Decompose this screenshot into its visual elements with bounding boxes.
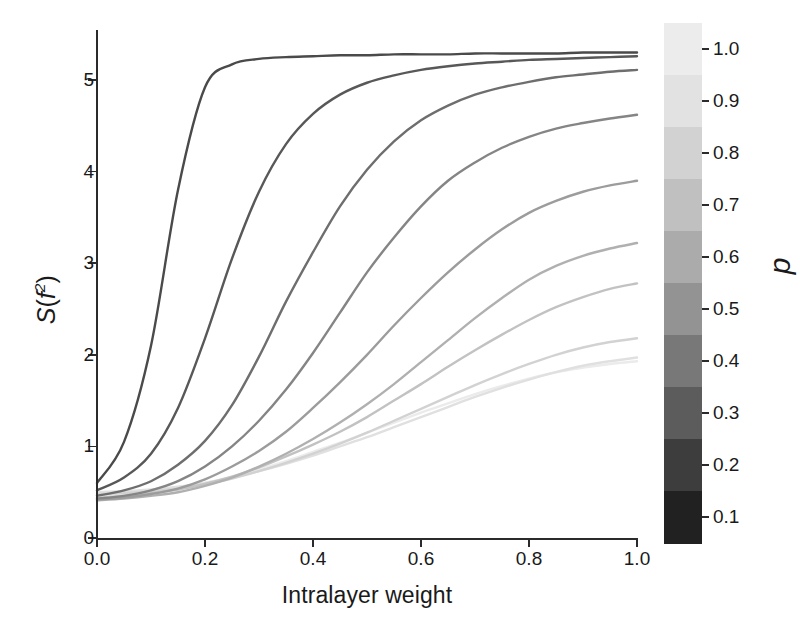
y-axis-title-fn: S bbox=[32, 307, 60, 324]
x-axis-tick bbox=[528, 539, 530, 547]
y-axis-title-close: ) bbox=[32, 275, 60, 283]
x-axis-tick bbox=[312, 539, 314, 547]
colorbar-tick bbox=[702, 516, 709, 518]
colorbar-band bbox=[664, 439, 702, 492]
colorbar-tick-label: 1.0 bbox=[713, 39, 761, 58]
colorbar-band bbox=[664, 491, 702, 544]
colorbar-tick bbox=[702, 204, 709, 206]
y-axis-line bbox=[96, 30, 98, 540]
colorbar-band bbox=[664, 387, 702, 440]
x-axis-line bbox=[96, 538, 638, 540]
x-axis-tick-label: 0.4 bbox=[283, 549, 343, 568]
x-axis-tick-label: 0.2 bbox=[175, 549, 235, 568]
y-axis-title-open: ( bbox=[32, 299, 60, 307]
y-axis-title-var: f bbox=[32, 292, 60, 299]
y-axis-title: S(f2) bbox=[31, 240, 60, 360]
curve-p-0.1 bbox=[97, 52, 637, 483]
curve-p-0.8 bbox=[97, 338, 637, 494]
x-axis-tick-label: 0.8 bbox=[499, 549, 559, 568]
colorbar-band bbox=[664, 283, 702, 336]
colorbar-band bbox=[664, 127, 702, 180]
curve-p-0.9 bbox=[97, 358, 637, 493]
colorbar-tick-label: 0.2 bbox=[713, 455, 761, 474]
colorbar-tick bbox=[702, 360, 709, 362]
curve-p-0.7 bbox=[97, 283, 637, 497]
curve-p-0.3 bbox=[97, 70, 637, 496]
x-axis-title: Intralayer weight bbox=[96, 582, 638, 609]
y-axis-tick-label: 1 bbox=[54, 436, 94, 455]
x-axis-tick-label: 0.6 bbox=[391, 549, 451, 568]
x-axis-tick bbox=[420, 539, 422, 547]
colorbar-gradient bbox=[664, 23, 702, 543]
y-axis-tick-label: 0 bbox=[54, 528, 94, 547]
curve-p-0.6 bbox=[97, 243, 637, 500]
colorbar-tick bbox=[702, 464, 709, 466]
colorbar-tick-label: 0.9 bbox=[713, 91, 761, 110]
colorbar-tick-label: 0.8 bbox=[713, 143, 761, 162]
colorbar-tick bbox=[702, 412, 709, 414]
colorbar-band bbox=[664, 231, 702, 284]
figure-chart: 012345 0.00.20.40.60.81.0 S(f2) Intralay… bbox=[0, 0, 800, 631]
colorbar-band bbox=[664, 335, 702, 388]
colorbar-tick-label: 0.4 bbox=[713, 351, 761, 370]
colorbar-band bbox=[664, 23, 702, 76]
colorbar-band bbox=[664, 179, 702, 232]
x-axis-tick-label: 1.0 bbox=[607, 549, 667, 568]
colorbar-tick bbox=[702, 100, 709, 102]
curve-p-1 bbox=[97, 361, 637, 496]
y-axis-title-exponent: 2 bbox=[31, 284, 48, 293]
curve-p-0.2 bbox=[97, 56, 637, 490]
y-axis-tick-label: 5 bbox=[54, 70, 94, 89]
colorbar-band bbox=[664, 75, 702, 128]
colorbar-tick bbox=[702, 256, 709, 258]
colorbar-tick-label: 0.1 bbox=[713, 507, 761, 526]
x-axis-tick bbox=[96, 539, 98, 547]
colorbar-title: p bbox=[763, 236, 797, 296]
colorbar-tick-label: 0.5 bbox=[713, 299, 761, 318]
x-axis-tick bbox=[204, 539, 206, 547]
x-axis-tick-label: 0.0 bbox=[67, 549, 127, 568]
x-axis-tick bbox=[636, 539, 638, 547]
colorbar-tick-label: 0.7 bbox=[713, 195, 761, 214]
colorbar-tick bbox=[702, 48, 709, 50]
colorbar-tick bbox=[702, 152, 709, 154]
y-axis-tick-label: 4 bbox=[54, 162, 94, 181]
curve-p-0.4 bbox=[97, 115, 637, 499]
curve-p-0.5 bbox=[97, 181, 637, 500]
colorbar-tick bbox=[702, 308, 709, 310]
colorbar-tick-label: 0.3 bbox=[713, 403, 761, 422]
colorbar-tick-label: 0.6 bbox=[713, 247, 761, 266]
